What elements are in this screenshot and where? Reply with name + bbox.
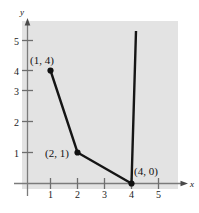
x-tick-label-1: 1 — [48, 189, 53, 200]
point-label-1-4: (1, 4) — [30, 54, 54, 67]
x-tick-label-5: 5 — [156, 189, 161, 200]
coordinate-plot: 5 4 3 2 1 1 2 3 4 5 y x (1, 4) (2, 1) (4… — [0, 0, 199, 213]
x-axis-label: x — [189, 179, 194, 189]
vertex-point-2-1 — [74, 149, 80, 155]
point-label-4-0: (4, 0) — [134, 165, 158, 178]
vertex-point-1-4 — [47, 67, 53, 73]
x-tick-label-3: 3 — [102, 189, 107, 200]
y-tick-label-1: 1 — [14, 148, 19, 159]
x-axis-arrowhead — [181, 181, 189, 187]
y-tick-label-4: 4 — [14, 66, 19, 77]
point-label-2-1: (2, 1) — [45, 147, 69, 160]
y-axis-label: y — [19, 7, 24, 17]
graph-figure: 5 4 3 2 1 1 2 3 4 5 y x (1, 4) (2, 1) (4… — [0, 0, 199, 213]
x-tick-label-4: 4 — [129, 189, 134, 200]
plot-area-background — [22, 21, 178, 189]
y-tick-label-2: 2 — [14, 117, 19, 128]
y-tick-label-3: 3 — [14, 86, 19, 97]
vertex-point-4-0 — [128, 180, 134, 186]
x-tick-label-2: 2 — [75, 189, 80, 200]
y-tick-label-5: 5 — [14, 36, 19, 47]
